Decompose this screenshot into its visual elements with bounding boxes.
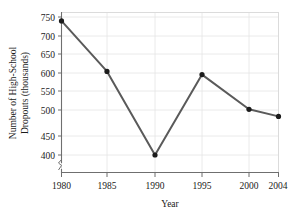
chart-svg: 400 450 500 550 600 650 700 750 1980 198… — [0, 0, 305, 215]
y-tick-label-500: 500 — [41, 106, 56, 116]
data-point-2004 — [276, 114, 281, 119]
line-chart: 400 450 500 550 600 650 700 750 1980 198… — [0, 0, 305, 215]
y-axis-title-line1: Number of High-School — [8, 46, 18, 139]
y-tick-label-650: 650 — [41, 50, 56, 60]
gridlines — [62, 17, 278, 155]
x-tick-label-2004: 2004 — [269, 181, 288, 191]
y-tick-label-750: 750 — [41, 13, 56, 23]
plot-frame — [62, 13, 279, 173]
x-tick-label-2000: 2000 — [240, 181, 259, 191]
y-tick-label-700: 700 — [41, 32, 56, 42]
data-point-1985 — [104, 69, 109, 74]
x-axis-title: Year — [161, 199, 179, 209]
y-axis-title-line2: Dropouts (thousands) — [20, 52, 31, 134]
data-point-2000 — [246, 107, 251, 112]
data-point-1980 — [59, 18, 64, 23]
y-tick-label-550: 550 — [41, 87, 56, 97]
series-line-dropouts — [62, 21, 279, 155]
y-tick-label-400: 400 — [41, 151, 56, 161]
data-point-1990 — [152, 152, 157, 157]
x-tick-label-1995: 1995 — [193, 181, 212, 191]
x-tick-label-1990: 1990 — [146, 181, 165, 191]
x-tick-label-1985: 1985 — [98, 181, 117, 191]
series-markers — [59, 18, 281, 157]
data-point-1995 — [199, 72, 204, 77]
y-tick-label-600: 600 — [41, 69, 56, 79]
y-tick-label-450: 450 — [41, 132, 56, 142]
x-tick-label-1980: 1980 — [52, 181, 71, 191]
